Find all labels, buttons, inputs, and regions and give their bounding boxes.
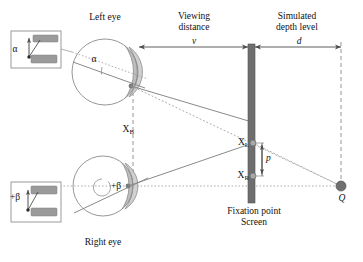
simulated-depth-symbol: d: [283, 36, 315, 47]
alpha-inset-origin-dot: [27, 55, 30, 58]
beta-inset-connector: [61, 199, 74, 200]
fixation-point-label: Fixation point: [211, 206, 297, 217]
alpha-inset-label: α: [8, 44, 22, 55]
left-eye-ray-to-screen: [131, 86, 252, 122]
xb-label-sub: B: [129, 128, 134, 135]
screen-label: Screen: [211, 217, 297, 228]
alpha-inset-connector: [61, 49, 72, 52]
q-point-label: Q: [335, 193, 349, 204]
xr-point-dot: [250, 173, 256, 179]
right-eye-label: Right eye: [72, 237, 134, 248]
beta-inset-label: +β: [5, 192, 25, 203]
beta-inset-bar-bottom: [31, 208, 57, 216]
xl-label-base: X: [238, 137, 245, 147]
alpha-angle-arc: [101, 67, 102, 75]
beta-inset-origin-dot: [26, 208, 29, 211]
xr-label-sub: R: [244, 174, 249, 181]
parallax-label: p: [266, 153, 280, 164]
left-eye-label: Left eye: [74, 12, 136, 23]
beta-inset-bar-top: [31, 186, 57, 194]
xr-label: XR: [231, 170, 249, 184]
alpha-inset-bar-bottom: [31, 55, 57, 63]
viewing-distance-label: Viewing distance: [158, 11, 230, 32]
xb-label: XB: [116, 124, 134, 138]
xl-label: XL: [231, 137, 249, 151]
simulated-depth-label: Simulated depth level: [258, 11, 336, 32]
alpha-angle-label: α: [87, 54, 101, 65]
beta-angle-label: +β: [106, 181, 126, 192]
q-point-dot: [336, 181, 346, 191]
xl-point-dot: [250, 140, 256, 146]
figure-canvas: Left eye Right eye Viewing distance v Si…: [0, 0, 363, 262]
alpha-inset-bar-top: [33, 35, 58, 42]
viewing-distance-symbol: v: [178, 36, 210, 47]
left-eye-group: [72, 39, 148, 105]
xl-label-sub: L: [245, 141, 249, 148]
